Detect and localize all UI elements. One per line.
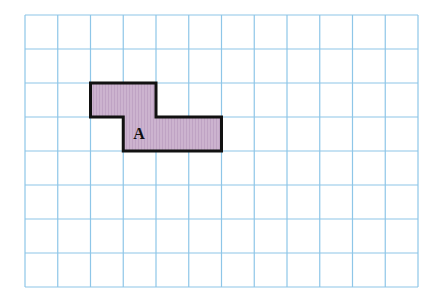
shape-a [91, 83, 222, 151]
grid-diagram [0, 0, 440, 302]
shape-label: A [133, 125, 145, 143]
